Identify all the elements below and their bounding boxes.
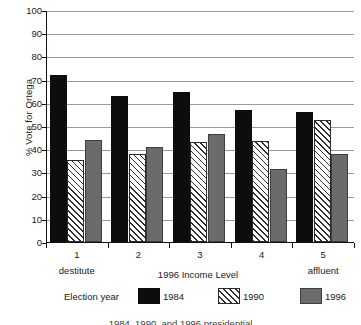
bar-1996-level-1 — [85, 140, 102, 242]
x-tick-mark — [169, 243, 170, 248]
y-tick-label: 10 — [8, 215, 42, 225]
x-axis-low-label: destitute — [37, 265, 117, 276]
x-tick-label-1: 1 — [57, 249, 97, 260]
figure-caption: 1984, 1990, and 1996 presidential — [0, 318, 361, 325]
legend-label-1990: 1990 — [243, 291, 264, 302]
y-tick-label: 0 — [8, 238, 42, 248]
bar-1996-level-2 — [146, 147, 163, 242]
bar-1984-level-4 — [235, 110, 252, 242]
bar-1990-level-5 — [314, 120, 331, 242]
x-axis-title: 1996 Income Level — [118, 269, 278, 280]
x-tick-label-3: 3 — [180, 249, 220, 260]
x-tick-label-5: 5 — [303, 249, 343, 260]
x-tick-mark — [46, 243, 47, 248]
y-tick-label: 20 — [8, 192, 42, 202]
solid-gray-swatch — [300, 288, 322, 304]
y-tick-label: 50 — [8, 122, 42, 132]
bar-1996-level-4 — [270, 169, 287, 242]
y-tick-label: 90 — [8, 29, 42, 39]
bar-group — [293, 11, 355, 242]
y-tick-label: 80 — [8, 52, 42, 62]
legend: Election year 198419901996 — [64, 288, 354, 308]
bar-1990-level-4 — [252, 141, 269, 242]
bar-1984-level-2 — [111, 96, 128, 242]
y-tick-label: 40 — [8, 145, 42, 155]
x-tick-label-2: 2 — [118, 249, 158, 260]
bar-1990-level-2 — [129, 154, 146, 242]
bar-1996-level-3 — [208, 134, 225, 242]
x-axis-high-label: affluent — [283, 265, 361, 276]
bar-group — [170, 11, 232, 242]
x-tick-mark — [292, 243, 293, 248]
legend-title: Election year — [64, 291, 119, 302]
x-tick-label-4: 4 — [242, 249, 282, 260]
y-axis-ticks: 0102030405060708090100 — [4, 11, 42, 243]
bar-group — [232, 11, 294, 242]
legend-label-1984: 1984 — [163, 291, 184, 302]
x-tick-mark — [354, 243, 355, 248]
bar-1984-level-1 — [50, 75, 67, 242]
x-tick-mark — [231, 243, 232, 248]
bar-group — [109, 11, 171, 242]
x-tick-mark — [108, 243, 109, 248]
y-tick-label: 70 — [8, 76, 42, 86]
y-tick-label: 30 — [8, 168, 42, 178]
bar-1984-level-5 — [296, 112, 313, 242]
bar-1990-level-1 — [67, 160, 84, 242]
y-tick-label: 100 — [8, 6, 42, 16]
bar-1996-level-5 — [331, 154, 348, 242]
solid-black-swatch — [138, 288, 160, 304]
bar-group — [47, 11, 109, 242]
hatched-swatch — [218, 288, 240, 304]
bar-chart: % Vote for Ortega 0102030405060708090100… — [0, 0, 361, 325]
plot-area — [46, 11, 354, 243]
bar-1990-level-3 — [190, 142, 207, 242]
bar-1984-level-3 — [173, 92, 190, 242]
y-tick-label: 60 — [8, 99, 42, 109]
legend-label-1996: 1996 — [325, 291, 346, 302]
